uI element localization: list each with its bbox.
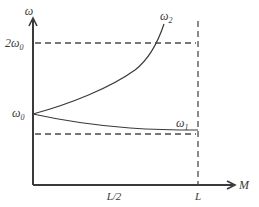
omega-vs-m-diagram: ω M 2ω0 ω0 L/2 L ω2 ω1: [0, 0, 259, 207]
omega0-tick-label: ω0: [12, 106, 24, 122]
x-axis-label: M: [238, 178, 250, 192]
omega2-label: ω2: [160, 9, 172, 25]
two-omega0-tick-label: 2ω0: [5, 36, 23, 52]
l-tick-label: L: [194, 190, 201, 202]
omega1-curve: [33, 114, 198, 130]
l-half-tick-label: L/2: [106, 190, 122, 202]
omega1-label: ω1: [176, 116, 188, 132]
y-axis-label: ω: [25, 4, 33, 18]
omega2-curve: [33, 24, 164, 114]
